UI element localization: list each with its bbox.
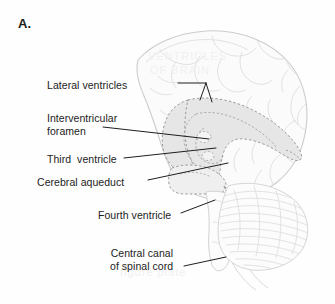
label-cerebral-aqueduct: Cerebral aqueduct <box>37 176 124 189</box>
ghost-text-1: VENTRICLES <box>148 50 227 62</box>
figure-container: VENTRICLES OF BRAIN figure plate A. Late… <box>0 0 335 304</box>
ghost-text-2: OF BRAIN <box>150 64 210 76</box>
panel-letter: A. <box>18 16 31 31</box>
label-interventricular-foramen: Interventricular foramen <box>47 112 117 137</box>
label-fourth-ventricle: Fourth ventricle <box>98 209 171 222</box>
label-central-canal-of-spinal-cord: Central canal of spinal cord <box>110 247 173 272</box>
label-lateral-ventricles: Lateral ventricles <box>47 79 127 92</box>
cerebellum-shape <box>218 183 308 270</box>
label-third-ventricle: Third ventricle <box>47 153 117 166</box>
